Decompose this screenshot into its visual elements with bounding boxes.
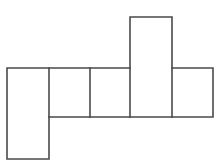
net-face-center-tall xyxy=(130,17,172,117)
net-face-strip-cell-2 xyxy=(90,68,130,117)
net-face-left-flap xyxy=(7,68,49,159)
net-face-strip-cell-1 xyxy=(49,68,90,117)
net-diagram xyxy=(0,0,221,164)
faces-layer xyxy=(7,17,213,159)
net-face-right-cell xyxy=(172,68,213,117)
diagram-canvas xyxy=(0,0,221,164)
